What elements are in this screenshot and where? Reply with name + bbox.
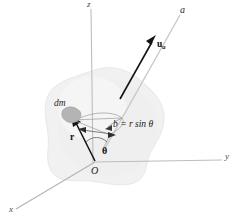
rotational-inertia-diagram: z y x a O dm r ua θ b = r sin θ xyxy=(0,0,239,220)
position-vector-label: r xyxy=(70,133,74,143)
mass-element-label: dm xyxy=(54,99,66,109)
axis-label-z: z xyxy=(87,0,91,9)
perpendicular-distance-label: b = r sin θ xyxy=(113,120,153,130)
origin-label: O xyxy=(91,166,98,176)
unit-vector-subscript: a xyxy=(162,43,165,50)
unit-vector-label: ua xyxy=(157,40,166,50)
diagram-canvas xyxy=(0,0,239,220)
axis-label-x: x xyxy=(9,205,13,214)
theta-angle-label: θ xyxy=(102,146,107,156)
axis-label-y: y xyxy=(225,152,229,161)
axis-label-a: a xyxy=(180,5,185,15)
